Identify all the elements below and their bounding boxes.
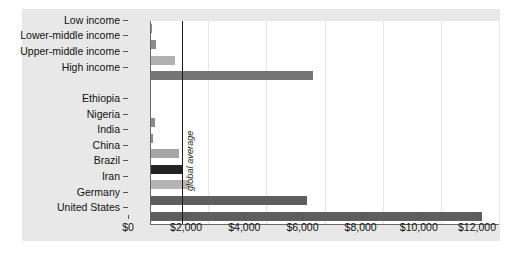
y-axis-tick — [123, 145, 128, 146]
figure-panel: global average Low incomeLower-middle in… — [22, 9, 500, 241]
y-axis-tick-label: Lower-middle income — [20, 30, 120, 40]
y-axis-tick — [123, 67, 128, 68]
x-axis-tick — [477, 215, 478, 219]
y-axis-tick-label: High income — [62, 62, 120, 72]
gridline — [441, 21, 442, 224]
y-axis-tick-label: United States — [57, 202, 120, 212]
y-axis-line — [150, 21, 151, 224]
gridline — [266, 21, 267, 224]
y-axis-tick-label: Low income — [64, 15, 120, 25]
y-axis-tick — [123, 114, 128, 115]
y-axis-tick — [123, 207, 128, 208]
y-axis-tick-label: Ethiopia — [82, 93, 120, 103]
gridline — [499, 21, 500, 224]
x-axis-tick — [186, 215, 187, 219]
x-axis-tick-label: $8,000 — [331, 222, 391, 233]
plot-area: global average — [150, 21, 499, 224]
y-axis-tick — [123, 176, 128, 177]
bar — [150, 71, 313, 80]
x-axis-tick — [303, 215, 304, 219]
x-axis-tick — [244, 215, 245, 219]
chart-screenshot: global average Low incomeLower-middle in… — [0, 0, 522, 254]
y-axis-tick — [123, 160, 128, 161]
bar — [150, 212, 482, 221]
x-axis-tick-label: $6,000 — [273, 222, 333, 233]
y-axis-tick — [123, 20, 128, 21]
y-axis-tick — [123, 98, 128, 99]
x-axis-tick-label: $10,000 — [389, 222, 449, 233]
y-axis-tick-label: Iran — [102, 171, 120, 181]
y-axis-tick — [123, 35, 128, 36]
bar — [150, 165, 183, 174]
x-axis-tick-label: $0 — [98, 222, 158, 233]
x-axis-tick-label: $12,000 — [447, 222, 507, 233]
gridline — [208, 21, 209, 224]
global-average-line — [182, 21, 183, 224]
y-axis-tick-label: Brazil — [94, 155, 120, 165]
y-axis-tick-label: Germany — [77, 187, 120, 197]
gridline — [383, 21, 384, 224]
bar — [150, 149, 179, 158]
x-axis-tick-label: $4,000 — [214, 222, 274, 233]
y-axis-tick — [123, 129, 128, 130]
x-axis-tick — [419, 215, 420, 219]
x-axis-tick — [361, 215, 362, 219]
bar — [150, 196, 307, 205]
y-axis-tick — [123, 192, 128, 193]
y-axis-tick-label: Nigeria — [87, 109, 120, 119]
bar — [150, 56, 175, 65]
gridline — [325, 21, 326, 224]
y-axis-tick-label: Upper-middle income — [20, 46, 120, 56]
x-axis-tick — [128, 215, 129, 219]
y-axis-tick — [123, 51, 128, 52]
y-axis-tick-label: China — [93, 140, 120, 150]
y-axis-tick-label: India — [97, 124, 120, 134]
global-average-label: global average — [185, 131, 195, 191]
x-axis-tick-label: $2,000 — [156, 222, 216, 233]
